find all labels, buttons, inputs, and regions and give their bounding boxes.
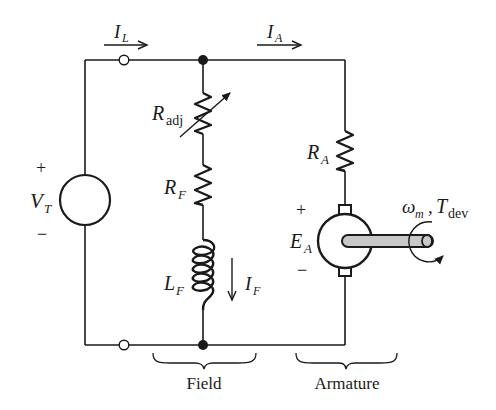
line-current-label: I L (104, 21, 147, 45)
shunt-dc-motor-circuit: I L I A + V T − R adj R F L F I F (0, 0, 496, 410)
field-brace-icon (153, 353, 256, 369)
emf-subscript: A (303, 241, 312, 256)
speed-subscript: m (415, 207, 424, 221)
voltage-source: + V T − (30, 158, 110, 244)
top-node (198, 55, 208, 65)
armature-brace-icon (296, 353, 397, 369)
armature-resistor-subscript: A (320, 152, 329, 167)
shaft-end-icon (422, 235, 432, 247)
source-plus-sign: + (36, 158, 46, 178)
torque-subscript: dev (448, 206, 468, 221)
emf-minus-sign: − (297, 260, 307, 280)
adjustable-resistor-subscript: adj (166, 113, 183, 128)
armature-current-label: I A (257, 21, 301, 45)
emf-plus-sign: + (296, 200, 306, 220)
field-resistor-subscript: F (177, 187, 187, 202)
source-symbol: V (30, 189, 45, 213)
field-inductor-subscript: F (175, 283, 185, 298)
source-subscript: T (44, 201, 52, 216)
field-brace: Field (153, 353, 256, 393)
armature-current-subscript: A (274, 31, 283, 45)
armature-brace: Armature (296, 353, 397, 393)
armature-current-symbol: I (266, 21, 275, 42)
line-current-subscript: L (121, 31, 129, 45)
adjustable-resistor-symbol: R (151, 102, 164, 124)
field-resistor-icon (195, 165, 211, 205)
field-current-symbol: I (244, 273, 253, 294)
field-current-label: I F (232, 258, 261, 300)
field-resistor: R F (163, 165, 211, 205)
field-resistor-symbol: R (163, 176, 176, 198)
field-label: Field (187, 374, 222, 393)
line-current-symbol: I (113, 21, 122, 42)
adjustable-resistor-icon (195, 93, 211, 134)
armature-label: Armature (314, 374, 379, 393)
voltage-source-icon (60, 175, 110, 225)
field-inductor-symbol: L (163, 272, 175, 294)
armature-resistor: R A (306, 131, 353, 171)
label-separator: , (428, 196, 433, 217)
armature-machine: + E A − ω m , T dev (289, 195, 468, 280)
inductor-coil-icon (193, 240, 214, 310)
armature-resistor-symbol: R (306, 141, 319, 163)
field-inductor: L F (163, 240, 214, 310)
adjustable-resistor: R adj (151, 93, 230, 137)
armature-resistor-icon (337, 131, 353, 171)
bottom-terminal (119, 340, 129, 350)
shaft-icon (342, 235, 433, 247)
bottom-node (198, 340, 208, 350)
speed-symbol: ω (402, 196, 415, 217)
top-terminal (119, 55, 129, 65)
emf-symbol: E (289, 230, 302, 252)
source-minus-sign: − (37, 224, 47, 244)
field-current-subscript: F (252, 284, 261, 298)
